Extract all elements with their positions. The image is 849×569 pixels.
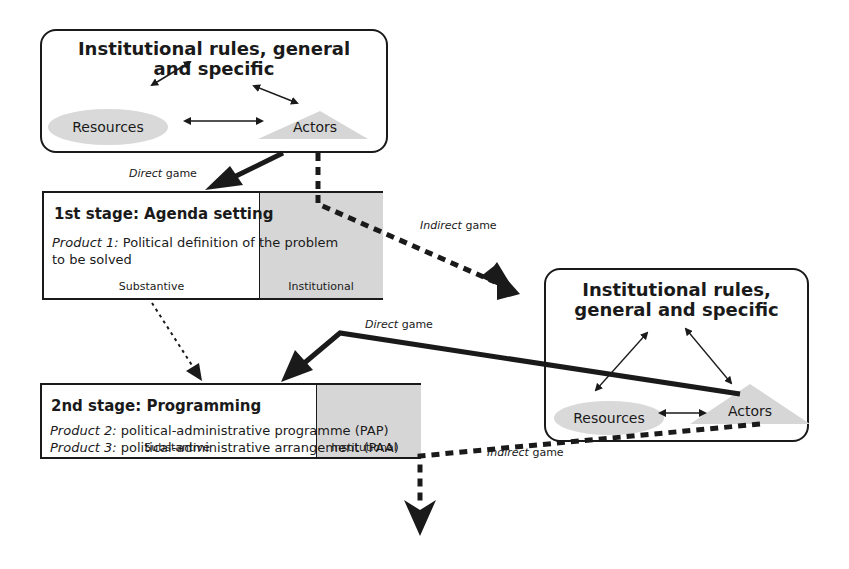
direct-game-2-arrowhead (281, 350, 313, 382)
indirect-game-2-label: Indirect game (487, 446, 564, 459)
direct-game-1-label: Direct game (129, 167, 197, 180)
indirect-game-1-label: Indirect game (420, 219, 497, 232)
connector-arrows (0, 0, 849, 569)
indirect-game-2-line (420, 424, 760, 505)
right-rules-actors-arrow (686, 329, 731, 383)
top-rules-actors-arrow (254, 86, 297, 103)
indirect-game-1-line (318, 153, 495, 282)
direct-game-2-label: Direct game (365, 318, 433, 331)
top-resources-rules-arrow (152, 62, 190, 85)
direct-game-2-line (302, 333, 740, 394)
right-rules-resources-arrow (596, 333, 647, 390)
indirect-game-2-arrowhead (404, 500, 436, 536)
direct-game-1-arrowhead (205, 166, 243, 190)
direct-game-1-line (232, 153, 283, 178)
stage1-to-stage2-dotted-arrow (152, 303, 195, 370)
